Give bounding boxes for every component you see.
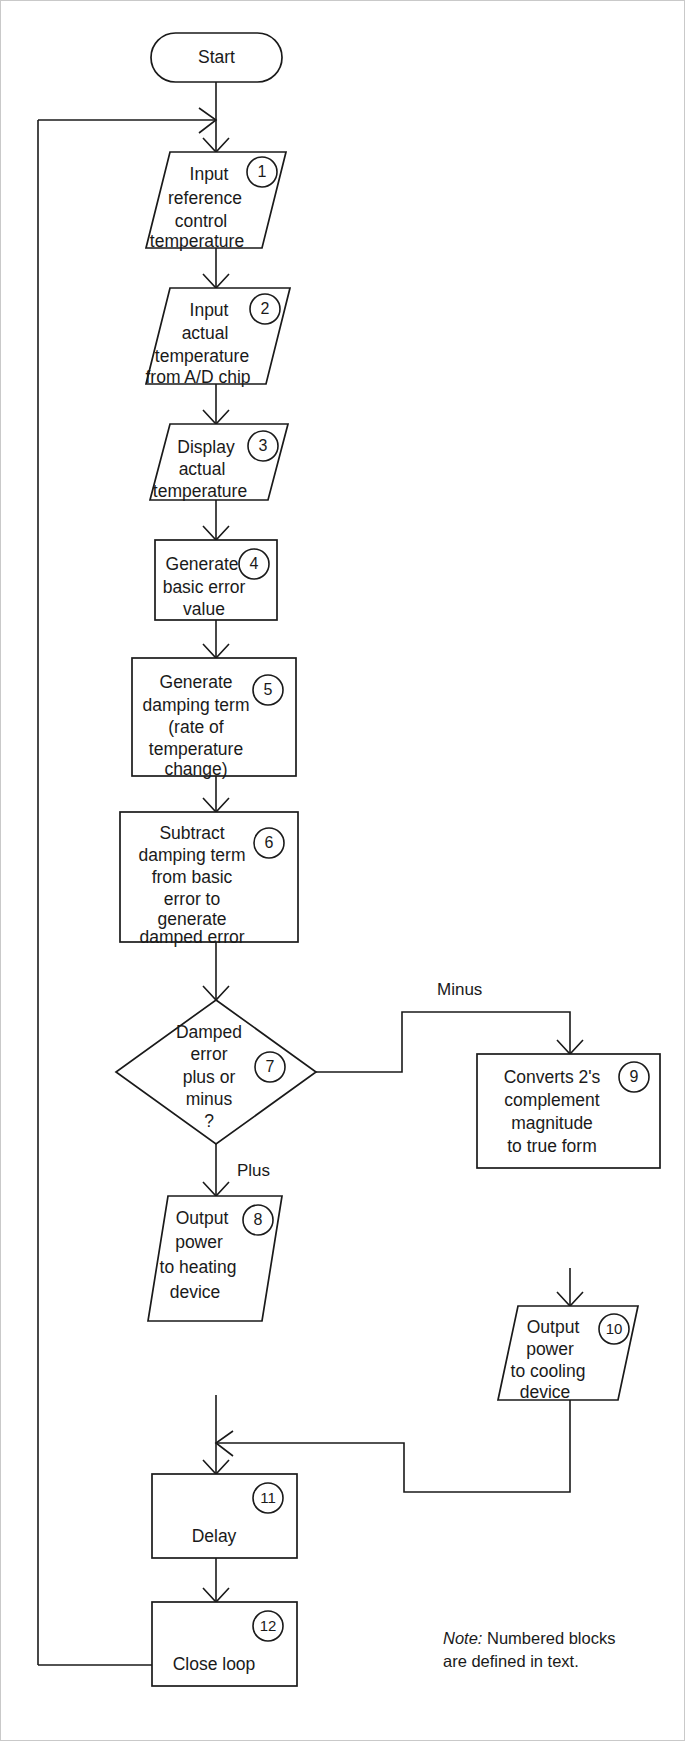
edge-label-plus: Plus	[237, 1161, 270, 1180]
block-9-line-4: to true form	[507, 1136, 596, 1156]
block-6-line-3: from basic	[152, 867, 233, 887]
node-block-8[interactable]: Output power to heating device 8	[148, 1196, 282, 1321]
note-block: Note: Numbered blocks are defined in tex…	[443, 1629, 615, 1670]
block-5-line-5: change)	[164, 759, 227, 779]
block-5-line-2: damping term	[143, 695, 250, 715]
block-7-line-5: ?	[204, 1111, 214, 1131]
node-block-10[interactable]: Output power to cooling device 10	[498, 1306, 638, 1402]
block-5-line-3: (rate of	[168, 717, 224, 737]
block-7-line-1: Damped	[176, 1022, 242, 1042]
block-9-line-1: Converts 2's	[504, 1067, 601, 1087]
note-label: Note:	[443, 1629, 482, 1647]
block-11-line-1: Delay	[192, 1526, 237, 1546]
block-7-line-2: error	[191, 1044, 228, 1064]
edge-label-minus: Minus	[437, 980, 482, 999]
block-7-line-4: minus	[186, 1089, 233, 1109]
block-11-badge: 11	[260, 1489, 276, 1506]
node-start[interactable]: Start	[151, 33, 282, 82]
node-block-12[interactable]: Close loop 12	[152, 1602, 297, 1686]
node-block-5[interactable]: Generate damping term (rate of temperatu…	[132, 658, 296, 779]
note-line-2: are defined in text.	[443, 1652, 579, 1670]
block-3-badge: 3	[259, 437, 268, 454]
node-block-6[interactable]: Subtract damping term from basic error t…	[120, 812, 298, 947]
block-8-line-3: to heating	[160, 1257, 237, 1277]
block-1-line-4: temperature	[150, 231, 244, 251]
block-2-line-3: temperature	[155, 346, 249, 366]
node-block-11[interactable]: Delay 11	[152, 1474, 297, 1558]
block-2-line-2: actual	[182, 323, 229, 343]
block-1-badge: 1	[258, 163, 267, 180]
block-4-line-2: basic error	[163, 577, 246, 597]
block-1-line-3: control	[175, 211, 228, 231]
block-7-badge: 7	[266, 1058, 275, 1075]
block-6-line-1: Subtract	[159, 823, 224, 843]
block-2-line-1: Input	[190, 300, 229, 320]
block-6-badge: 6	[265, 834, 274, 851]
block-8-line-2: power	[175, 1232, 223, 1252]
node-block-2[interactable]: Input actual temperature from A/D chip 2	[145, 288, 290, 387]
block-12-badge: 12	[260, 1617, 277, 1634]
block-3-line-2: actual	[179, 459, 226, 479]
block-12-line-1: Close loop	[173, 1654, 256, 1674]
block-9-line-3: magnitude	[511, 1113, 593, 1133]
block-8-line-1: Output	[176, 1208, 229, 1228]
node-block-9[interactable]: Converts 2's complement magnitude to tru…	[477, 1054, 660, 1168]
block-4-badge: 4	[250, 555, 259, 572]
block-10-line-2: power	[526, 1339, 574, 1359]
note-text-rest: Numbered blocks	[482, 1629, 615, 1647]
block-4-line-3: value	[183, 599, 225, 619]
block-2-badge: 2	[261, 300, 270, 317]
flowchart-canvas: Start Input reference control temperatur…	[0, 0, 685, 1741]
block-6-line-2: damping term	[139, 845, 246, 865]
block-5-line-4: temperature	[149, 739, 243, 759]
block-1-line-2: reference	[168, 188, 242, 208]
block-7-line-3: plus or	[183, 1067, 236, 1087]
block-10-line-4: device	[520, 1382, 571, 1402]
node-block-1[interactable]: Input reference control temperature 1	[146, 152, 286, 251]
block-9-line-2: complement	[504, 1090, 599, 1110]
note-line-1: Note: Numbered blocks	[443, 1629, 615, 1647]
page-frame	[1, 1, 685, 1741]
block-9-badge: 9	[630, 1068, 639, 1085]
block-10-line-3: to cooling	[511, 1361, 586, 1381]
node-block-4[interactable]: Generate basic error value 4	[155, 540, 277, 620]
block-1-line-1: Input	[190, 164, 229, 184]
block-8-badge: 8	[254, 1211, 263, 1228]
flowchart-page: Start Input reference control temperatur…	[0, 0, 685, 1741]
block-8-line-4: device	[170, 1282, 221, 1302]
block-5-badge: 5	[264, 681, 273, 698]
block-6-line-6: damped error	[139, 927, 244, 947]
block-2-line-4: from A/D chip	[145, 367, 250, 387]
block-6-line-4: error to	[164, 889, 220, 909]
block-5-line-1: Generate	[160, 672, 233, 692]
node-block-3[interactable]: Display actual temperature 3	[150, 424, 288, 501]
block-6-line-5: generate	[157, 909, 226, 929]
block-10-badge: 10	[606, 1320, 623, 1337]
node-block-7[interactable]: Damped error plus or minus ? 7	[116, 1000, 316, 1144]
block-3-line-3: temperature	[153, 481, 247, 501]
block-10-line-1: Output	[527, 1317, 580, 1337]
block-4-line-1: Generate	[166, 554, 239, 574]
start-label: Start	[198, 47, 235, 67]
block-3-line-1: Display	[177, 437, 235, 457]
